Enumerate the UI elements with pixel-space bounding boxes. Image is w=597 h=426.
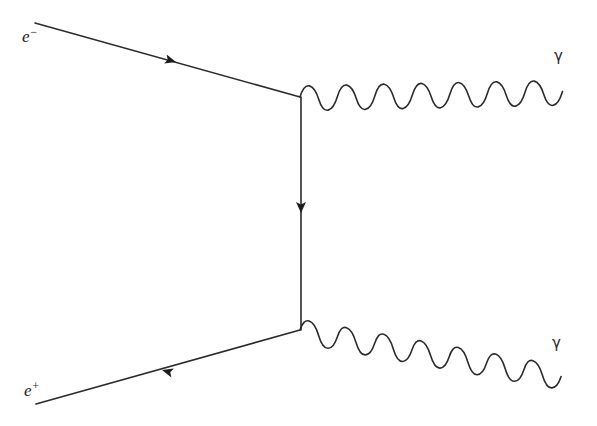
electron-direction-arrow-icon <box>164 55 177 67</box>
positron-label: e+ <box>24 379 40 400</box>
photon-top-label: γ <box>554 47 563 65</box>
positron-label-charge: + <box>32 379 40 393</box>
electron-label-charge: − <box>30 25 38 39</box>
feynman-diagram-canvas: e− e+ γ γ <box>0 0 597 426</box>
electron-label: e− <box>22 25 38 46</box>
feynman-diagram-svg: e− e+ γ γ <box>0 0 597 426</box>
photon-bottom-label: γ <box>552 334 561 352</box>
positron-fermion-line <box>36 330 300 404</box>
photon-top-wavy-line <box>300 81 562 110</box>
photon-bottom-wavy-line <box>300 321 561 388</box>
